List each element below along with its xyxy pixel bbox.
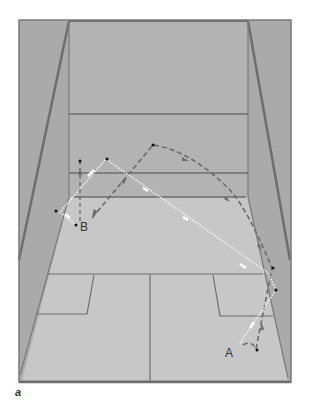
player-b-label: B (80, 220, 88, 234)
contact-point-marker (256, 349, 259, 352)
squash-court-diagram: B A (0, 0, 309, 411)
contact-point-marker (275, 289, 278, 292)
contact-point-marker (272, 267, 275, 270)
contact-point-marker (55, 210, 58, 213)
contact-point-marker (75, 224, 78, 227)
front-wall (69, 21, 248, 197)
figure-caption: a (15, 386, 21, 398)
contact-point-marker (79, 160, 82, 163)
player-a-label: A (225, 346, 233, 360)
contact-point-marker (152, 144, 155, 147)
contact-point-marker (106, 158, 109, 161)
